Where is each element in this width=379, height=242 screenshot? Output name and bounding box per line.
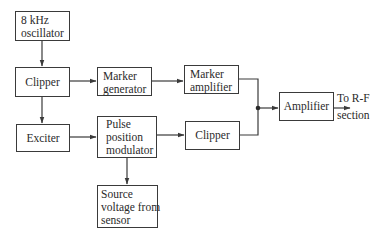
exciter-label: Exciter: [26, 132, 59, 145]
block-amplifier: Amplifier: [279, 92, 334, 121]
block-marker-amplifier: Marker amplifier: [184, 65, 239, 94]
marker-amplifier-line-2: amplifier: [190, 81, 238, 94]
block-marker-generator: Marker generator: [97, 67, 152, 96]
block-clipper-bottom: Clipper: [185, 121, 240, 150]
clipper-bottom-label: Clipper: [195, 129, 230, 142]
ppm-line-3: modulator: [106, 144, 156, 157]
source-line-1: Source: [101, 188, 157, 201]
oscillator-line-2: oscillator: [21, 27, 69, 40]
source-line-3: sensor: [101, 214, 157, 227]
block-oscillator: 8 kHz oscillator: [15, 11, 70, 41]
block-pulse-position-modulator: Pulse position modulator: [97, 116, 157, 158]
marker-amplifier-line-1: Marker: [190, 68, 238, 81]
oscillator-line-1: 8 kHz: [21, 14, 69, 27]
block-source-voltage: Source voltage from sensor: [97, 185, 158, 228]
ppm-line-2: position: [106, 131, 156, 144]
clipper-top-label: Clipper: [25, 76, 60, 89]
marker-generator-line-1: Marker: [103, 70, 151, 83]
wire-marker-amplifier-to-junction: [239, 79, 258, 108]
junction-dot: [256, 106, 261, 111]
block-exciter: Exciter: [16, 124, 70, 152]
block-clipper-top: Clipper: [15, 67, 70, 97]
output-label: To R-F section: [337, 92, 370, 122]
wire-clipper-to-junction: [240, 108, 258, 135]
amplifier-label: Amplifier: [284, 100, 329, 113]
ppm-line-1: Pulse: [106, 118, 156, 131]
marker-generator-line-2: generator: [103, 83, 151, 96]
output-line-2: section: [337, 109, 370, 122]
output-line-1: To R-F: [337, 92, 370, 105]
source-line-2: voltage from: [101, 201, 157, 214]
